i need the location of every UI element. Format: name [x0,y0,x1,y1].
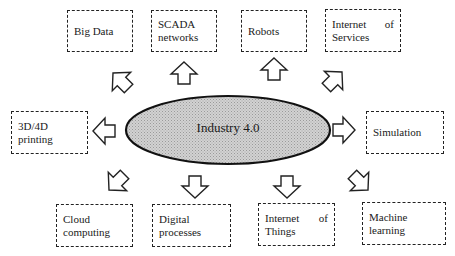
arrow-internet-of-services-icon [317,63,351,97]
arrow-cloud-computing-icon [100,165,134,199]
node-label: Things [265,225,328,238]
node-label: Simulation [373,126,437,139]
node-label: Machine [369,211,439,224]
node-label: computing [63,226,126,239]
node-label: learning [369,224,439,237]
node-label: Big Data [74,25,126,38]
arrow-digital-processes-icon [182,176,208,198]
node-digital-processes: Digital processes [152,204,231,247]
node-cloud-computing: Cloud computing [56,204,133,247]
node-label: of [385,18,394,31]
node-robots: Robots [241,10,307,52]
arrow-big-data-icon [104,64,138,98]
industry-4-diagram: Industry 4.0 Big Data SCADA networks Rob… [0,0,455,256]
node-label: Services [332,31,394,44]
node-machine-learning: Machine learning [362,202,446,245]
arrow-simulation-icon [333,117,355,143]
arrow-scada-icon [171,62,197,84]
node-internet-of-things: Internet of Things [258,203,335,246]
node-big-data: Big Data [67,10,133,52]
node-label: Digital [159,213,224,226]
node-label: Robots [248,25,300,38]
arrow-internet-of-things-icon [274,176,300,198]
node-label: 3D/4D [18,120,81,133]
node-label: networks [158,31,210,44]
node-label: Internet [332,18,366,31]
arrow-3d4d-printing-icon [93,118,115,144]
node-internet-of-services: Internet of Services [325,9,401,52]
node-label: SCADA [158,18,210,31]
node-scada-networks: SCADA networks [151,10,217,52]
node-label: of [319,212,328,225]
node-label: Internet [265,212,299,225]
arrow-robots-icon [261,58,287,80]
arrow-machine-learning-icon [343,165,377,199]
node-3d4d-printing: 3D/4D printing [11,111,88,154]
node-label: printing [18,133,81,146]
node-label: processes [159,226,224,239]
center-label: Industry 4.0 [128,120,328,136]
node-simulation: Simulation [366,111,444,154]
node-label: Cloud [63,213,126,226]
